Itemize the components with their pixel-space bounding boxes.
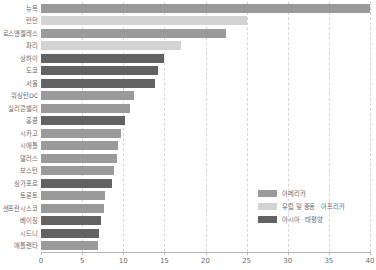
gridline-10 [123,2,124,252]
x-axis-tick-label: 5 [80,257,84,265]
x-axis-tick-label: 35 [324,257,333,265]
bar [41,154,117,163]
bar-row [41,141,118,150]
legend-swatch [258,190,277,197]
bar [41,141,118,150]
legend-label: 아메리카 [282,189,306,198]
bar [41,79,155,88]
y-axis-label: 파리 [26,41,38,50]
bar-row [41,154,117,163]
bar [41,116,125,125]
y-axis-label: 시애틀 [20,141,38,150]
bar-row [41,204,104,213]
bar [41,191,105,200]
legend-item[interactable]: 아메리카 [258,188,374,199]
bar [41,29,226,38]
x-axis-tick [82,252,83,255]
y-axis-label: 시카고 [20,129,38,138]
bar [41,66,158,75]
bar-row [41,129,121,138]
bar [41,241,98,250]
bar-row [41,216,101,225]
y-axis-label: 실리콘밸리 [8,104,38,113]
bar-row [41,54,164,63]
bar [41,16,247,25]
legend-item[interactable]: 아시아 · 태평양 [258,214,374,225]
bar-chart: 뉴욕런던로스앤젤레스파리상하이도쿄서울워싱턴DC실리콘밸리홍콩시카고시애틀댈러스… [0,0,376,270]
x-axis-tick [206,252,207,255]
x-axis-tick [370,252,371,255]
bar-row [41,104,130,113]
legend-swatch [258,216,277,223]
bar-row [41,179,112,188]
x-axis-tick-label: 15 [160,257,169,265]
bar [41,204,104,213]
x-axis-tick-label: 20 [201,257,210,265]
legend-item[interactable]: 유럽 및 중동 · 아프리카 [258,201,374,212]
y-axis-label-group: 뉴욕런던로스앤젤레스파리상하이도쿄서울워싱턴DC실리콘밸리홍콩시카고시애틀댈러스… [0,2,38,252]
y-axis-label: 싱가포르 [14,179,38,188]
bar [41,166,114,175]
x-axis-tick [164,252,165,255]
x-axis-tick [41,252,42,255]
legend-swatch [258,203,277,210]
x-axis-tick-label: 25 [242,257,251,265]
x-axis: 0510152025303540 [41,252,370,270]
bar-row [41,79,155,88]
legend-label: 아시아 · 태평양 [282,215,323,224]
bar [41,216,101,225]
y-axis-label: 런던 [26,16,38,25]
bar-row [41,66,158,75]
x-axis-tick [288,252,289,255]
y-axis-label: 애틀랜타 [14,241,38,250]
x-axis-tick-label: 30 [283,257,292,265]
chart-legend: 아메리카유럽 및 중동 · 아프리카아시아 · 태평양 [258,188,374,227]
bar [41,129,121,138]
y-axis-label: 로스앤젤레스 [3,29,38,38]
y-axis-label: 도쿄 [26,66,38,75]
y-axis-label: 토론토 [20,191,38,200]
x-axis-tick [247,252,248,255]
legend-label: 유럽 및 중동 · 아프리카 [282,202,345,211]
bar [41,91,134,100]
bar [41,41,181,50]
bar [41,179,112,188]
bar [41,229,99,238]
y-axis-label: 베이징 [20,216,38,225]
x-axis-tick-label: 0 [39,257,43,265]
bar-row [41,116,125,125]
bar-row [41,91,134,100]
x-axis-tick [123,252,124,255]
x-axis-tick-label: 10 [119,257,128,265]
bar [41,54,164,63]
bar-row [41,41,181,50]
bar-row [41,4,370,13]
gridline-25 [247,2,248,252]
x-axis-tick-label: 40 [366,257,375,265]
gridline-20 [206,2,207,252]
y-axis-label: 워싱턴DC [11,91,38,100]
bar [41,4,370,13]
y-axis-label: 홍콩 [26,116,38,125]
bar-row [41,166,114,175]
bar-row [41,241,98,250]
y-axis-label: 보스턴 [20,166,38,175]
gridline-5 [82,2,83,252]
y-axis-label: 댈러스 [20,154,38,163]
bar [41,104,130,113]
gridline-15 [164,2,165,252]
bar-row [41,229,99,238]
y-axis-label: 샌프란시스코 [3,204,38,213]
bar-row [41,191,105,200]
y-axis-label: 시드니 [20,229,38,238]
y-axis-label: 상하이 [20,54,38,63]
bar-row [41,29,226,38]
x-axis-tick [329,252,330,255]
y-axis-label: 뉴욕 [26,4,38,13]
bar-row [41,16,247,25]
y-axis-label: 서울 [26,79,38,88]
